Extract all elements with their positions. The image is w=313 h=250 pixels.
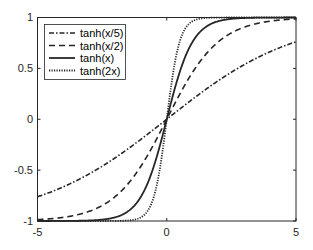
legend-label: tanh(x) — [80, 52, 114, 64]
chart: -5 0 5 -1 -0.5 0 0.5 1 tanh(x/5) tanh(x/… — [0, 0, 313, 250]
legend-label: tanh(2x) — [80, 65, 120, 77]
legend: tanh(x/5) tanh(x/2) tanh(x) tanh(2x) — [45, 25, 126, 80]
x-tick-label: 0 — [163, 226, 169, 238]
y-tick-label: 1 — [27, 11, 33, 23]
x-tick-label: 5 — [293, 226, 299, 238]
legend-label: tanh(x/2) — [80, 40, 123, 52]
x-tick-labels: -5 0 5 — [33, 226, 299, 238]
x-tick-label: -5 — [33, 226, 43, 238]
y-tick-label: -1 — [23, 215, 33, 227]
y-tick-label: 0.5 — [18, 62, 33, 74]
y-tick-label: -0.5 — [14, 164, 33, 176]
y-tick-label: 0 — [27, 113, 33, 125]
y-tick-labels: -1 -0.5 0 0.5 1 — [14, 11, 33, 227]
legend-label: tanh(x/5) — [80, 27, 123, 39]
